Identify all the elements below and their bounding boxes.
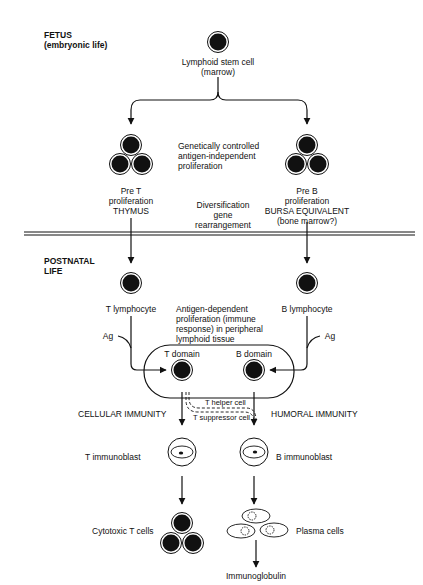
pre-b-cluster-icon xyxy=(286,135,329,175)
pre-t-label: Pre T proliferation THYMUS xyxy=(96,186,166,216)
b-domain-label: B domain xyxy=(229,349,279,359)
t-immunoblast-label: T immunoblast xyxy=(85,452,141,462)
humoral-immunity-label: HUMORAL IMMUNITY xyxy=(271,409,358,419)
cellular-immunity-label: CELLULAR IMMUNITY xyxy=(78,409,166,419)
t-domain-cell-icon xyxy=(172,360,193,381)
pre-b-label: Pre B proliferation BURSA EQUIVALENT (bo… xyxy=(252,186,362,226)
arrow-b-to-domain xyxy=(270,316,307,370)
ag-curve-right xyxy=(307,336,320,348)
t-lymphocyte-label: T lymphocyte xyxy=(96,304,166,314)
b-lymphocyte-icon xyxy=(297,273,318,294)
t-immunoblast-icon xyxy=(168,438,196,466)
diagram-canvas xyxy=(0,0,423,585)
b-lymphocyte-label: B lymphocyte xyxy=(272,304,342,314)
stem-cell-icon xyxy=(208,32,229,53)
t-domain-label: T domain xyxy=(157,349,207,359)
postnatal-header: POSTNATAL LIFE xyxy=(44,256,95,276)
plasma-cells-icon xyxy=(227,509,288,538)
branch-arrow-left xyxy=(131,77,218,124)
stem-cell-label: Lymphoid stem cell (marrow) xyxy=(168,57,268,77)
b-domain-cell-icon xyxy=(244,360,265,381)
b-immunoblast-label: B immunoblast xyxy=(276,452,332,462)
plasma-cells-label: Plasma cells xyxy=(296,526,344,536)
cytotoxic-t-cluster-icon xyxy=(161,513,204,554)
b-immunoblast-icon xyxy=(240,438,268,466)
genetic-note: Genetically controlled antigen-independe… xyxy=(178,141,259,171)
fetus-header: FETUS (embryonic life) xyxy=(44,30,107,50)
t-lymphocyte-icon xyxy=(121,273,142,294)
branch-arrow-right xyxy=(218,92,307,124)
ag-right-label: Ag xyxy=(322,331,338,341)
cytotoxic-t-label: Cytotoxic T cells xyxy=(92,526,154,536)
ag-curve-left xyxy=(118,336,131,348)
t-suppressor-label: T suppressor cell xyxy=(193,413,250,423)
arrow-t-to-domain xyxy=(131,316,166,370)
antigen-note: Antigen-dependent proliferation (immune … xyxy=(176,304,263,344)
immunoglobulin-label: Immunoglobulin xyxy=(221,571,291,581)
pre-t-cluster-icon xyxy=(110,135,153,175)
t-helper-label: T helper cell xyxy=(205,398,246,408)
ag-left-label: Ag xyxy=(100,331,116,341)
